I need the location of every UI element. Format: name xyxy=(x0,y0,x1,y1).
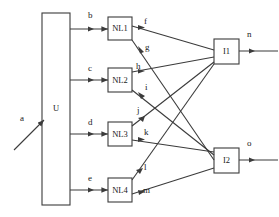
edge-h xyxy=(132,57,214,72)
signal-label-c: c xyxy=(88,64,92,73)
signal-label-j: j xyxy=(137,106,140,115)
signal-label-m: m xyxy=(143,186,150,195)
edge-b-mid xyxy=(88,27,94,32)
block-label-I2: I2 xyxy=(214,156,239,165)
signal-label-i: i xyxy=(145,83,148,92)
block-diagram-canvas: U NL1 NL2 NL3 NL4 I1 I2 a b c d e f g h … xyxy=(0,0,279,217)
signal-label-g: g xyxy=(145,43,150,52)
signal-label-h: h xyxy=(136,62,141,71)
edge-c-mid xyxy=(88,78,94,83)
signal-label-f: f xyxy=(144,17,147,26)
signal-label-b: b xyxy=(88,11,93,20)
signal-label-n: n xyxy=(247,30,252,39)
signal-label-o: o xyxy=(247,139,252,148)
block-label-U: U xyxy=(42,104,70,113)
edge-n-mid xyxy=(249,49,255,54)
block-label-NL1: NL1 xyxy=(108,24,132,33)
signal-label-k: k xyxy=(144,128,149,137)
block-label-NL3: NL3 xyxy=(108,130,132,139)
signal-label-l: l xyxy=(144,163,147,172)
signal-label-d: d xyxy=(88,118,93,127)
edge-o-mid xyxy=(249,158,255,163)
edge-e-mid xyxy=(88,188,94,193)
block-label-NL4: NL4 xyxy=(108,186,132,195)
edge-d-mid xyxy=(88,132,94,137)
signal-label-e: e xyxy=(88,174,92,183)
block-label-I1: I1 xyxy=(214,47,239,56)
signal-label-a: a xyxy=(20,114,24,123)
block-label-NL2: NL2 xyxy=(108,76,132,85)
edge-a xyxy=(14,120,44,150)
